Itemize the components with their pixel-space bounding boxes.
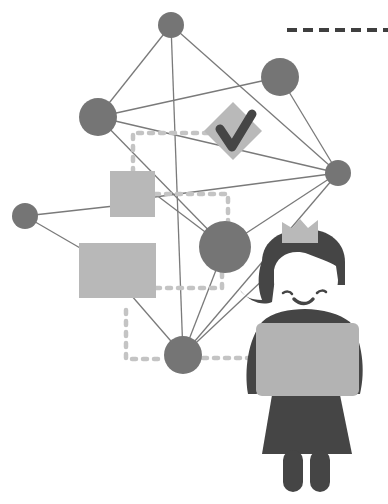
large-square-box: [79, 243, 156, 298]
node-center: [199, 221, 251, 273]
node-right: [325, 160, 351, 186]
small-square-box: [110, 171, 155, 217]
girl-figure: [240, 219, 363, 492]
network-illustration: [0, 0, 388, 504]
dress: [262, 395, 352, 454]
blank-sign: [256, 323, 359, 396]
left-leg: [283, 450, 303, 492]
crown-icon: [282, 219, 318, 243]
node-far-left: [12, 203, 38, 229]
node-left-mid: [79, 98, 117, 136]
node-bottom: [164, 336, 202, 374]
checkmark-badge: [204, 102, 262, 160]
right-leg: [310, 450, 330, 492]
node-top: [158, 12, 184, 38]
node-top-right: [261, 58, 299, 96]
